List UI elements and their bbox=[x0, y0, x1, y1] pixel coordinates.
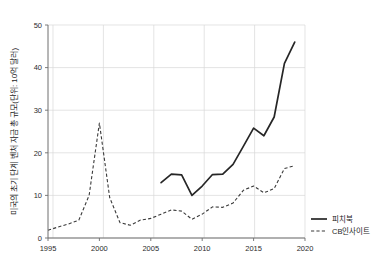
y-tick-label-0: 0 bbox=[38, 234, 42, 243]
y-axis-title: 미국의 초기 단계 벤처 자금 총 규모(단위: 10억 달러) bbox=[9, 48, 19, 216]
chart-figure: 01020304050 199520002005201020152020 미국의… bbox=[0, 0, 379, 275]
y-tick-label-30: 30 bbox=[34, 106, 42, 115]
x-tick-label-2010: 2010 bbox=[194, 244, 211, 253]
y-axis-ticks: 01020304050 bbox=[34, 21, 48, 243]
legend-label-cbinsights: CB인사이트 bbox=[332, 226, 370, 236]
y-tick-label-50: 50 bbox=[34, 21, 42, 30]
x-tick-label-2000: 2000 bbox=[91, 244, 108, 253]
legend-label-pitchbook: 피치북 bbox=[332, 215, 353, 224]
x-tick-label-2015: 2015 bbox=[245, 244, 262, 253]
x-axis-ticks: 199520002005201020152020 bbox=[40, 238, 314, 253]
y-tick-label-40: 40 bbox=[34, 63, 42, 72]
x-tick-label-1995: 1995 bbox=[40, 244, 57, 253]
x-tick-label-2005: 2005 bbox=[142, 244, 159, 253]
x-tick-label-2020: 2020 bbox=[297, 244, 314, 253]
y-tick-label-20: 20 bbox=[34, 149, 42, 158]
line-chart: 01020304050 199520002005201020152020 미국의… bbox=[0, 0, 379, 275]
chart-legend: 피치북 CB인사이트 bbox=[311, 215, 370, 236]
y-tick-label-10: 10 bbox=[34, 191, 42, 200]
